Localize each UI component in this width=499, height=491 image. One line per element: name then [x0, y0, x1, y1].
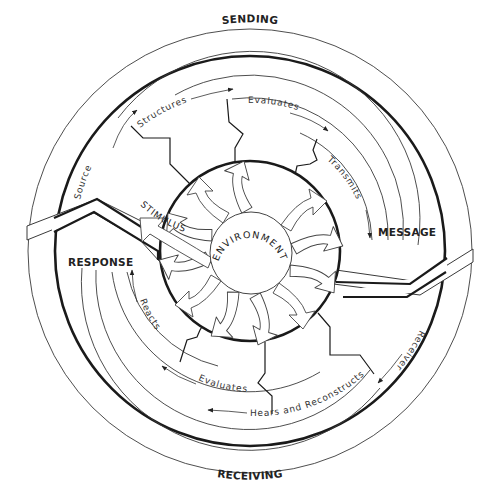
arrow-icon: [290, 113, 328, 131]
step-source: Source: [72, 163, 93, 200]
step-transmits: Transmits: [325, 153, 364, 201]
receiving-label: RECEIVING: [217, 467, 284, 482]
arrow-icon: [191, 89, 233, 99]
communication-cycle-diagram: STIMULUS ENVIRONMENT SENDING RECEIVING M…: [0, 0, 499, 491]
step-evaluates-receiving: Evaluates: [197, 373, 248, 394]
sending-label: SENDING: [221, 12, 279, 26]
step-evaluates-sending: Evaluates: [248, 95, 301, 112]
response-label: RESPONSE: [68, 256, 133, 268]
arrow-icon: [132, 270, 137, 302]
step-reacts: Reacts: [138, 297, 163, 332]
arrow-icon: [208, 410, 247, 413]
step-receiver: Receiver: [394, 329, 427, 373]
message-label: MESSAGE: [378, 226, 436, 238]
arrow-icon: [162, 366, 196, 384]
step-structures: Structures: [135, 94, 188, 129]
step-hears-and-reconstructs: Hears and Reconstructs: [250, 369, 366, 419]
